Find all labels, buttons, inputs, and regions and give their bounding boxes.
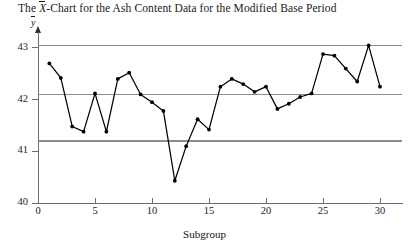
data-point — [127, 71, 131, 75]
data-point — [207, 128, 211, 132]
series-line — [49, 45, 380, 180]
data-point — [230, 77, 234, 81]
data-point — [48, 62, 52, 66]
data-point — [241, 82, 245, 86]
data-point — [253, 90, 257, 94]
data-point — [150, 100, 154, 104]
data-point — [378, 85, 382, 89]
data-point — [276, 107, 280, 111]
series-markers — [48, 43, 382, 182]
data-point — [264, 85, 268, 89]
data-point — [287, 102, 291, 106]
data-point — [355, 80, 359, 84]
data-point — [162, 109, 166, 113]
data-point — [139, 93, 143, 97]
data-point — [310, 92, 314, 96]
chart-container: The X-Chart for the Ash Content Data for… — [0, 0, 409, 251]
data-point — [344, 67, 348, 71]
data-point — [298, 95, 302, 99]
data-point — [105, 130, 109, 134]
data-point — [173, 179, 177, 183]
data-point — [219, 85, 223, 89]
x-axis-label: Subgroup — [0, 228, 409, 240]
data-point — [321, 52, 325, 56]
data-point — [367, 43, 371, 47]
data-point — [93, 92, 97, 96]
series-plot — [0, 0, 409, 251]
data-point — [116, 77, 120, 81]
data-point — [184, 144, 188, 148]
data-point — [82, 130, 86, 134]
data-point — [333, 54, 337, 58]
data-point — [70, 125, 74, 129]
data-point — [196, 117, 200, 121]
data-point — [59, 76, 63, 80]
